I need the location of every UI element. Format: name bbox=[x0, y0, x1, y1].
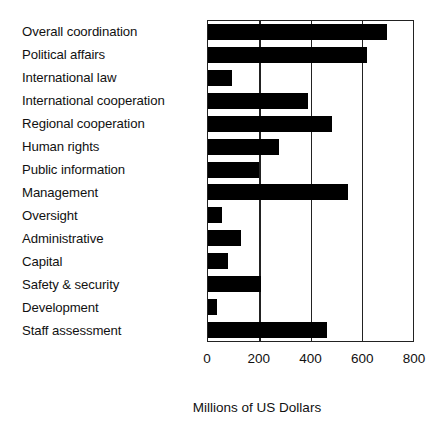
x-tick-label: 600 bbox=[351, 352, 374, 366]
category-label: Regional cooperation bbox=[22, 112, 204, 135]
bar[interactable] bbox=[208, 70, 232, 86]
category-label: Safety & security bbox=[22, 273, 204, 296]
x-tick-label: 400 bbox=[299, 352, 322, 366]
category-label: Political affairs bbox=[22, 43, 204, 66]
bar-row bbox=[208, 135, 413, 158]
category-label: Human rights bbox=[22, 135, 204, 158]
bar[interactable] bbox=[208, 276, 261, 292]
plot-area bbox=[207, 20, 414, 342]
bar-row bbox=[208, 295, 413, 318]
bar[interactable] bbox=[208, 116, 332, 132]
bar-row bbox=[208, 181, 413, 204]
bar-row bbox=[208, 21, 413, 44]
bar[interactable] bbox=[208, 24, 387, 40]
bar-row bbox=[208, 272, 413, 295]
category-label: Public information bbox=[22, 158, 204, 181]
x-tick-label: 200 bbox=[247, 352, 270, 366]
bar[interactable] bbox=[208, 47, 367, 63]
bar-chart: Overall coordination Political affairs I… bbox=[0, 0, 442, 434]
bar-row bbox=[208, 227, 413, 250]
category-label: Staff assessment bbox=[22, 319, 204, 342]
x-axis-tick-labels: 0200400600800 bbox=[207, 352, 414, 372]
bar[interactable] bbox=[208, 207, 222, 223]
bar[interactable] bbox=[208, 162, 259, 178]
category-axis-labels: Overall coordination Political affairs I… bbox=[22, 20, 204, 342]
bar-row bbox=[208, 204, 413, 227]
category-label: Administrative bbox=[22, 227, 204, 250]
x-axis-title-text: Millions of US Dollars bbox=[193, 400, 321, 415]
bar-row bbox=[208, 67, 413, 90]
bar-row bbox=[208, 158, 413, 181]
category-label: Overall coordination bbox=[22, 20, 204, 43]
bar[interactable] bbox=[208, 299, 217, 315]
x-tick-label: 0 bbox=[203, 352, 211, 366]
category-label: International law bbox=[22, 66, 204, 89]
x-axis-title: Millions of US Dollars bbox=[0, 400, 442, 415]
bar-row bbox=[208, 44, 413, 67]
bar[interactable] bbox=[208, 93, 308, 109]
category-label: Oversight bbox=[22, 204, 204, 227]
bar[interactable] bbox=[208, 139, 279, 155]
bar-row bbox=[208, 90, 413, 113]
bar-row bbox=[208, 318, 413, 341]
category-label: Capital bbox=[22, 250, 204, 273]
bar[interactable] bbox=[208, 230, 241, 246]
bar-row bbox=[208, 250, 413, 273]
category-label: Development bbox=[22, 296, 204, 319]
category-label: Management bbox=[22, 181, 204, 204]
bar[interactable] bbox=[208, 253, 228, 269]
bars-layer bbox=[208, 21, 413, 341]
bar[interactable] bbox=[208, 322, 327, 338]
category-label: International cooperation bbox=[22, 89, 204, 112]
x-tick-label: 800 bbox=[403, 352, 426, 366]
bar-row bbox=[208, 112, 413, 135]
bar[interactable] bbox=[208, 184, 348, 200]
